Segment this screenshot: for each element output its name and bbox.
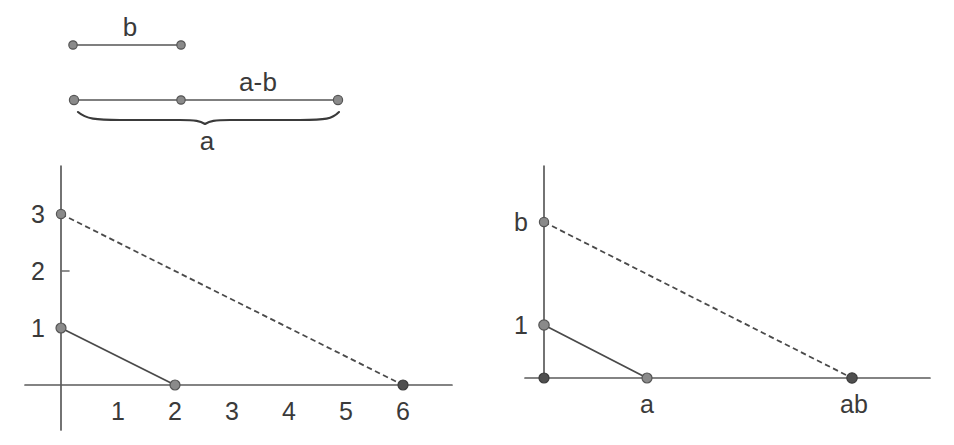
right-graph-x-label-ab: ab (840, 392, 868, 417)
left-graph-point-6-0 (398, 380, 408, 390)
left-graph-x-label-2: 2 (168, 399, 182, 424)
left-graph-x-label-3: 3 (225, 399, 239, 424)
right-graph-point-a-0 (642, 373, 652, 383)
segment-b-left-endpoint (69, 41, 77, 49)
segment-a-right-endpoint (333, 95, 342, 104)
right-graph-x-label-a: a (640, 392, 654, 417)
left-graph-point-0-1 (56, 323, 66, 333)
right-graph-point-origin (539, 373, 549, 383)
right-graph-solid-hypotenuse (544, 325, 647, 378)
left-graph-point-2-0 (170, 380, 180, 390)
left-graph-dashed-hypotenuse (61, 214, 403, 385)
segment-a-left-endpoint (69, 95, 78, 104)
segment-a-label: a (200, 128, 215, 154)
segment-a-split-point (177, 96, 185, 104)
right-graph-y-label-1: 1 (514, 313, 528, 338)
segment-b-label: b (123, 14, 138, 40)
right-graph-group (525, 166, 930, 383)
left-graph-y-label-3: 3 (31, 202, 45, 227)
left-graph-group (25, 166, 452, 430)
right-graph-y-label-b: b (514, 210, 528, 235)
right-graph-dashed-hypotenuse (544, 222, 852, 378)
figure-vector-graphics (0, 0, 954, 445)
figure-canvas: b a-b a 3 2 1 1 2 3 4 5 6 b 1 a ab (0, 0, 954, 445)
left-graph-point-0-3 (56, 209, 65, 218)
left-graph-x-label-1: 1 (111, 399, 125, 424)
segment-b-right-endpoint (177, 41, 185, 49)
right-graph-point-0-b (539, 217, 548, 226)
segment-a-minus-b-label: a-b (239, 69, 277, 95)
left-graph-solid-hypotenuse (61, 328, 175, 385)
segment-subtraction-group (69, 41, 343, 124)
left-graph-x-label-5: 5 (339, 399, 353, 424)
left-graph-y-label-1: 1 (31, 316, 45, 341)
left-graph-x-label-4: 4 (282, 399, 296, 424)
brace-under-a (78, 112, 339, 124)
left-graph-x-label-6: 6 (396, 399, 410, 424)
right-graph-point-0-1 (539, 320, 549, 330)
left-graph-y-label-2: 2 (31, 259, 45, 284)
right-graph-point-ab-0 (847, 373, 857, 383)
